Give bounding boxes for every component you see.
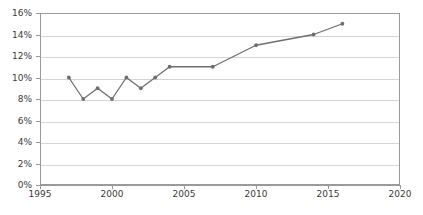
x-axis: 199520002005201020152020: [0, 0, 423, 215]
x-axis-tick-label: 1995: [29, 190, 52, 199]
x-axis-tick-label: 2005: [173, 190, 196, 199]
x-axis-tick-label: 2010: [245, 190, 268, 199]
x-axis-tick-mark: [328, 185, 329, 189]
x-axis-tick-label: 2000: [101, 190, 124, 199]
x-axis-tick-mark: [112, 185, 113, 189]
x-axis-tick-label: 2015: [317, 190, 340, 199]
x-axis-tick-label: 2020: [389, 190, 412, 199]
x-axis-tick-mark: [400, 185, 401, 189]
x-axis-tick-mark: [184, 185, 185, 189]
x-axis-tick-mark: [40, 185, 41, 189]
line-chart: 0%2%4%6%8%10%12%14%16% 19952000200520102…: [0, 0, 423, 215]
x-axis-tick-mark: [256, 185, 257, 189]
